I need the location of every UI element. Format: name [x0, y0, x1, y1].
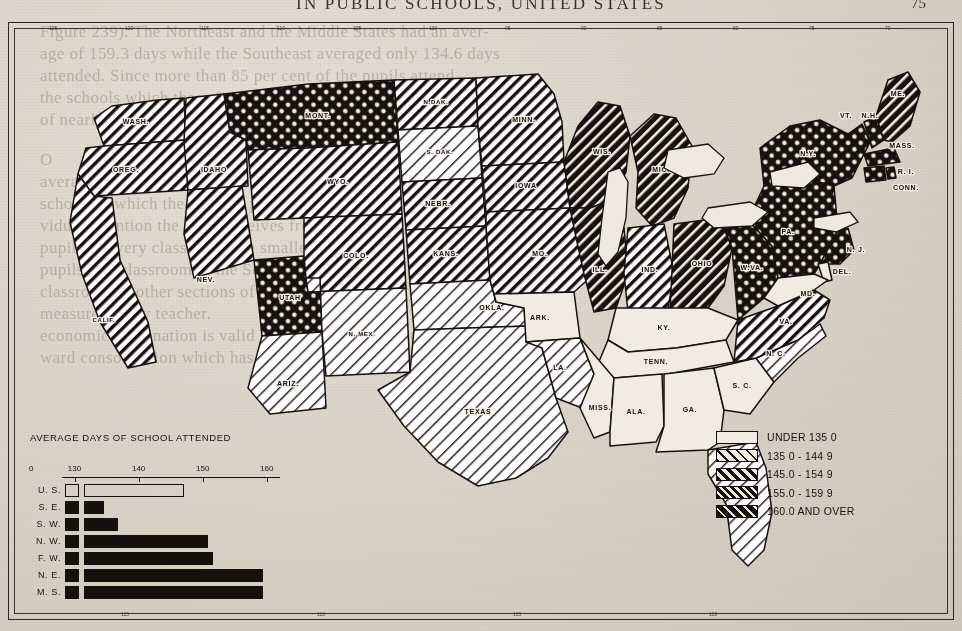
bar-label: S. W. [30, 518, 61, 531]
state-label: ILL. [592, 266, 607, 273]
state-label: DEL. [833, 268, 852, 275]
page-number: 75 [911, 0, 926, 12]
legend-item: 135 0 - 144 9 [716, 447, 912, 466]
state-label: N. MEX. [348, 331, 375, 337]
axis-tick-label: 0 [29, 464, 33, 473]
legend-label: 160.0 AND OVER [767, 505, 855, 517]
state-label: IOWA [515, 182, 536, 189]
axis-tick-label: 140 [132, 464, 145, 473]
bar-row: N. E. [30, 569, 298, 582]
state-label: COLO. [343, 252, 369, 259]
bar-row: U. S. [30, 484, 298, 497]
axis-tick-mark [267, 477, 268, 482]
bar [84, 518, 118, 531]
axis-tick-mark [139, 477, 140, 482]
bar-label: N. W. [30, 535, 61, 548]
bar-zero-stub [65, 586, 79, 599]
axis-tick-label: 150 [196, 464, 209, 473]
state-label: N. J. [847, 246, 865, 253]
state-conn [864, 166, 886, 182]
state-ariz [248, 332, 326, 414]
page-headline: IN PUBLIC SCHOOLS, UNITED STATES [0, 0, 962, 14]
state-label: OKLA. [479, 304, 504, 311]
state-label: VT. [840, 112, 852, 119]
bar [84, 484, 184, 497]
state-label: WIS. [593, 148, 611, 155]
bar-label: S. E. [30, 501, 61, 514]
bar [84, 535, 208, 548]
state-calif [70, 174, 156, 368]
legend-swatch [716, 449, 758, 462]
state-me [876, 72, 920, 142]
state-label: KANS. [433, 250, 458, 257]
state-label: OHIO [692, 260, 713, 267]
bar-row: S. W. [30, 518, 298, 531]
state-label: NEBR. [425, 200, 450, 207]
state-label: MISS. [589, 404, 612, 411]
state-label: MASS. [889, 142, 915, 149]
legend-label: 145.0 - 154 9 [767, 468, 833, 480]
state-label: OREG. [113, 166, 139, 173]
state-label: GA. [683, 406, 698, 413]
state-label: ALA. [626, 408, 645, 415]
axis-tick-label: 160 [260, 464, 273, 473]
state-label: W.VA. [741, 264, 764, 271]
inset-chart-title: AVERAGE DAYS OF SCHOOL ATTENDED [30, 432, 298, 444]
legend-label: 135 0 - 144 9 [767, 450, 833, 462]
state-label: N. C. [766, 350, 785, 357]
bar [84, 569, 263, 582]
state-label: ARK. [530, 314, 550, 321]
bar-zero-stub [65, 484, 79, 497]
legend-item: 155.0 - 159 9 [716, 484, 912, 503]
state-label: R. I. [898, 168, 914, 175]
state-label: LA. [553, 364, 566, 371]
bar-row: N. W. [30, 535, 298, 548]
state-label: WASH. [123, 118, 149, 125]
axis-tick-mark [75, 477, 76, 482]
bar-row: S. E. [30, 501, 298, 514]
state-label: NEV. [197, 276, 216, 283]
legend-swatch [716, 505, 758, 518]
state-label: N.Y. [800, 150, 816, 157]
bar-zero-stub [65, 552, 79, 565]
state-label: MD. [801, 290, 816, 297]
state-label: TENN. [644, 358, 669, 365]
state-label: MINN. [512, 116, 535, 123]
bar-row: F. W. [30, 552, 298, 565]
bar [84, 501, 104, 514]
state-label: IND. [642, 266, 659, 273]
state-nev [184, 186, 254, 278]
state-mass [864, 148, 900, 166]
inset-bar-chart: AVERAGE DAYS OF SCHOOL ATTENDED 01301401… [30, 432, 298, 604]
state-label: WYO. [327, 178, 348, 185]
state-label: TEXAS [465, 408, 492, 415]
bar-label: M. S. [30, 586, 61, 599]
state-label: N.H. [862, 112, 879, 119]
map-legend: UNDER 135 0135 0 - 144 9145.0 - 154 9155… [716, 428, 912, 521]
state-label: KY. [658, 324, 671, 331]
bar-label: U. S. [30, 484, 61, 497]
state-label: CONN. [893, 184, 919, 191]
bar-zero-stub [65, 518, 79, 531]
state-label: PA. [781, 228, 794, 235]
legend-swatch [716, 468, 758, 481]
axis-tick-mark [203, 477, 204, 482]
state-wyo [248, 142, 402, 220]
axis-tick-label: 130 [68, 464, 81, 473]
legend-label: UNDER 135 0 [767, 431, 837, 443]
axis-line [62, 477, 280, 478]
bar-zero-stub [65, 569, 79, 582]
bar [84, 586, 263, 599]
state-label: IDAHO [201, 166, 227, 173]
legend-item: 160.0 AND OVER [716, 502, 912, 521]
legend-swatch [716, 431, 758, 444]
legend-item: 145.0 - 154 9 [716, 465, 912, 484]
state-label: S. C. [732, 382, 751, 389]
inset-chart-axis: 0130140150160 [30, 464, 298, 482]
state-label: MONT. [305, 112, 330, 119]
state-label: N.DAK. [424, 99, 449, 105]
legend-label: 155.0 - 159 9 [767, 487, 833, 499]
bar-label: N. E. [30, 569, 61, 582]
bar-label: F. W. [30, 552, 61, 565]
bar-zero-stub [65, 501, 79, 514]
